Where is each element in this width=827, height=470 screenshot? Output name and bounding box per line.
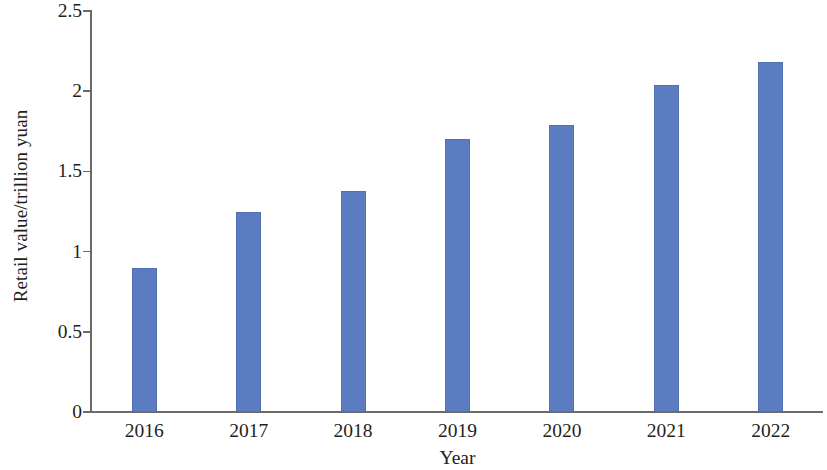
x-axis-tick-label: 2022 [719, 419, 823, 443]
bar-slot [510, 11, 614, 412]
bar-slot [614, 11, 718, 412]
bar-slot [405, 11, 509, 412]
y-axis-tick-label: 1.5 [36, 162, 82, 182]
bar-slot [719, 11, 823, 412]
x-axis-tick-labels: 2016201720182019202020212022 [92, 419, 823, 443]
x-axis-tick-label: 2020 [510, 419, 614, 443]
y-axis-tick-label: 2 [36, 81, 82, 101]
plot-area [92, 11, 823, 412]
y-axis-tick-label: 0.5 [36, 322, 82, 342]
y-axis-tick-mark [83, 90, 91, 92]
bar[interactable] [549, 125, 574, 412]
bar-slot [301, 11, 405, 412]
x-axis-title: Year [92, 446, 823, 469]
y-axis-tick-labels: 2.521.510.50 [36, 0, 82, 470]
y-axis-title: Retail value/trillion yuan [6, 0, 36, 412]
y-axis-tick-mark [83, 411, 91, 413]
y-axis-tick-label: 0 [36, 402, 82, 422]
bar[interactable] [132, 268, 157, 412]
bar[interactable] [758, 62, 783, 412]
y-axis-tick-mark [83, 251, 91, 253]
bar-slot [92, 11, 196, 412]
x-axis-tick-label: 2017 [196, 419, 300, 443]
bar[interactable] [445, 139, 470, 412]
y-axis-tick-mark [83, 171, 91, 173]
bar[interactable] [654, 85, 679, 412]
bar-slot [196, 11, 300, 412]
y-axis-tick-label: 1 [36, 242, 82, 262]
x-axis-tick-label: 2019 [405, 419, 509, 443]
x-axis-tick-label: 2016 [92, 419, 196, 443]
bar[interactable] [236, 212, 261, 413]
bar-chart: Retail value/trillion yuan 2.521.510.50 … [0, 0, 827, 470]
bar[interactable] [341, 191, 366, 412]
x-axis-tick-label: 2018 [301, 419, 405, 443]
y-axis-tick-mark [83, 331, 91, 333]
y-axis-tick-mark [83, 10, 91, 12]
y-axis-tick-label: 2.5 [36, 1, 82, 21]
bars-layer [92, 11, 823, 412]
x-axis-tick-label: 2021 [614, 419, 718, 443]
